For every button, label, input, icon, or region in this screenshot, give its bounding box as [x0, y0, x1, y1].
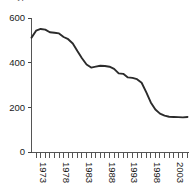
- x-tick-label: 1983: [84, 162, 95, 183]
- y-tick-label: 0: [20, 146, 25, 157]
- y-axis-tick-labels: 0200400600: [9, 12, 25, 157]
- x-tick-label: 1998: [152, 162, 163, 183]
- x-tick-label: 1988: [107, 162, 118, 183]
- x-tick-label: 1978: [61, 162, 72, 183]
- x-tick-label: 1993: [129, 162, 140, 183]
- y-tick-label: 200: [9, 102, 25, 113]
- x-tick-label: 1973: [38, 162, 49, 183]
- y-tick-label: 600: [9, 12, 25, 23]
- x-axis-minor-ticks: [36, 153, 187, 159]
- x-tick-label: 2003: [175, 162, 186, 183]
- x-axis-tick-labels: 1973197819831988199319982003: [38, 162, 187, 183]
- chart-figure: Typical measurements 0200400600 19731978…: [0, 0, 195, 184]
- line-chart-plot: 0200400600 1973197819831988199319982003: [0, 0, 195, 184]
- y-tick-label: 400: [9, 57, 25, 68]
- data-line-series-1: [32, 29, 188, 117]
